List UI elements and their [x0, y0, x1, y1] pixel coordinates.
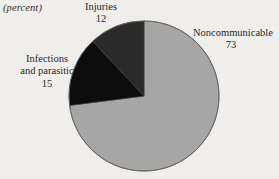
callout-infections: Infections and parasitic 15: [8, 53, 86, 90]
callout-infections-label-line2: and parasitic: [20, 65, 73, 76]
callout-injuries-label: Injuries: [85, 1, 117, 12]
callout-noncommunicable-label: Noncommunicable: [193, 27, 273, 38]
pie-chart-figure: (percent) Injuries 12 Infections and par…: [0, 0, 279, 179]
callout-infections-value: 15: [8, 78, 86, 90]
callout-injuries: Injuries 12: [73, 1, 129, 26]
callout-noncommunicable: Noncommunicable 73: [193, 27, 279, 52]
callout-infections-label-line1: Infections: [26, 53, 68, 64]
callout-injuries-value: 12: [73, 13, 129, 25]
callout-noncommunicable-value: 73: [193, 39, 269, 51]
